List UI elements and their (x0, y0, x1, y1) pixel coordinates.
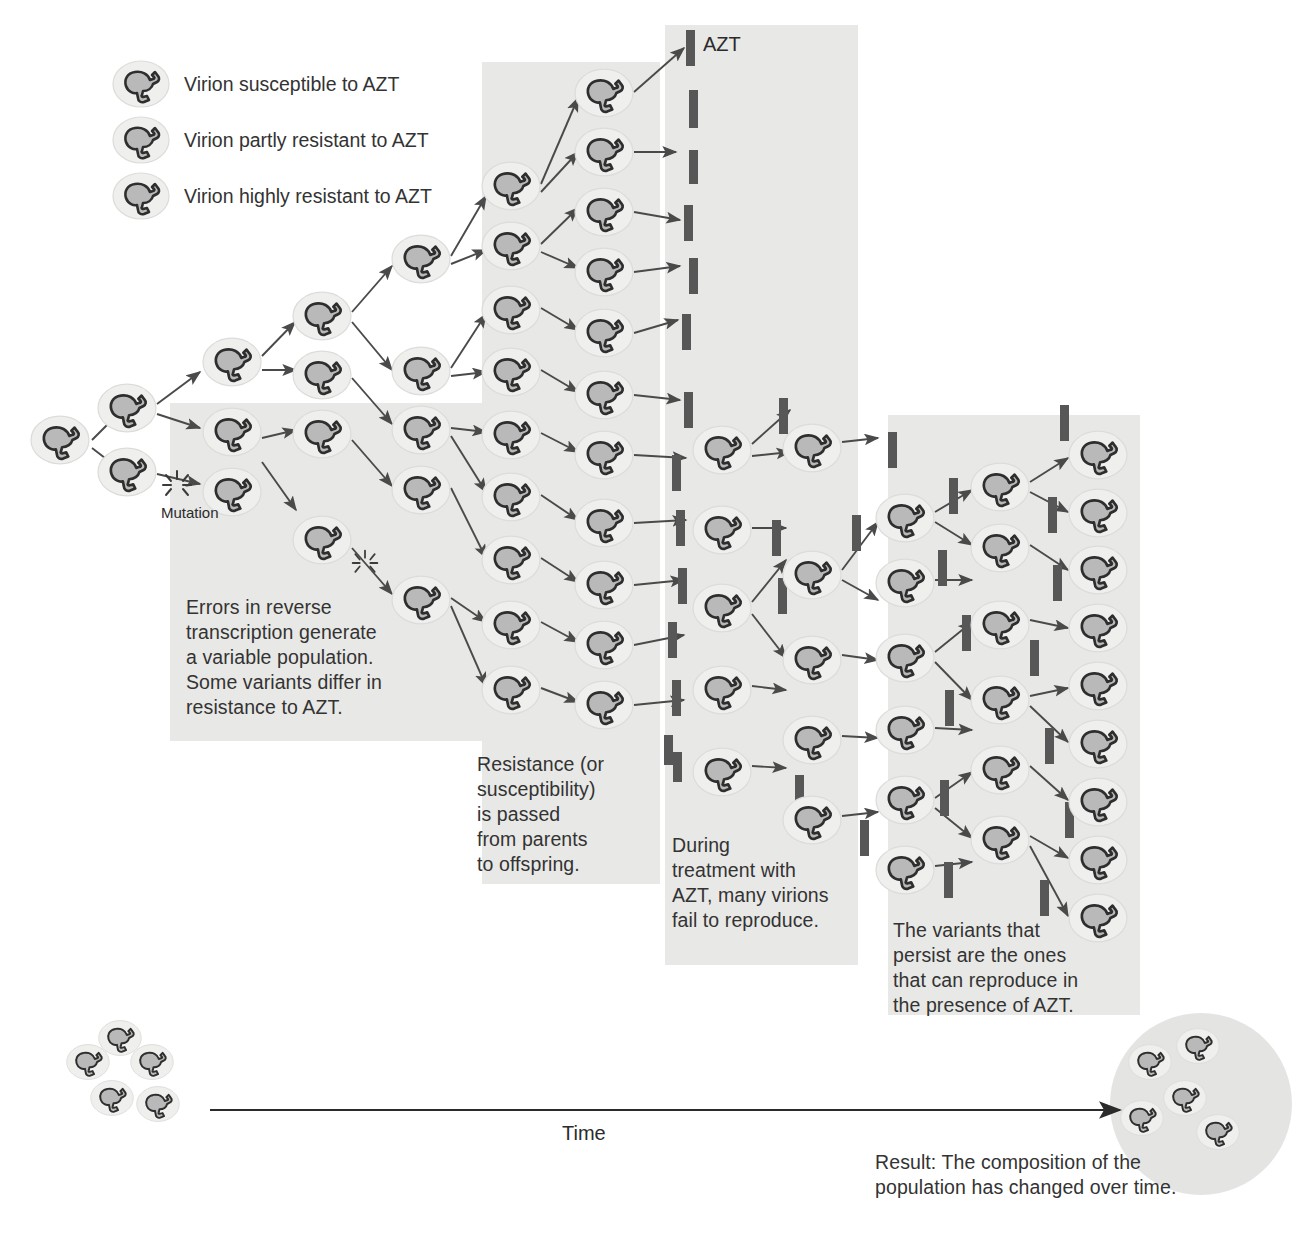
reproduction-arrow (352, 322, 392, 370)
legend-label-highly-resistant: Virion highly resistant to AZT (184, 185, 432, 208)
virion-icon (293, 351, 351, 399)
panel-selection (665, 25, 858, 965)
figure-canvas: Virion susceptible to AZT Virion partly … (0, 0, 1304, 1237)
legend-item-susceptible: Virion susceptible to AZT (112, 60, 399, 108)
virion-icon (293, 292, 351, 340)
legend-item-partly-resistant: Virion partly resistant to AZT (112, 116, 429, 164)
caption-persistence: The variants that persist are the ones t… (893, 918, 1108, 1018)
azt-label: AZT (703, 33, 741, 56)
caption-heredity: Resistance (or susceptibility) is passed… (477, 752, 647, 877)
reproduction-arrow (451, 196, 486, 256)
virion-icon (203, 338, 261, 386)
virion-icon (112, 60, 170, 108)
reproduction-arrow (262, 322, 295, 356)
mutation-starburst-icon-2 (350, 548, 380, 578)
virion-icon (112, 116, 170, 164)
virion-icon (98, 384, 156, 432)
reproduction-arrow (92, 414, 118, 440)
legend-item-highly-resistant: Virion highly resistant to AZT (112, 172, 432, 220)
time-label: Time (562, 1122, 606, 1145)
caption-variation: Errors in reverse transcription generate… (186, 595, 436, 720)
virion-icon (392, 235, 450, 283)
virion-icon (98, 448, 156, 496)
reproduction-arrow (92, 448, 118, 468)
virion-icon-start (131, 1045, 173, 1080)
mutation-label: Mutation (161, 504, 219, 521)
virion-icon-start (99, 1021, 141, 1056)
reproduction-arrow (352, 266, 392, 312)
virion-icon-start (91, 1081, 133, 1116)
result-text: Result: The composition of the populatio… (875, 1150, 1205, 1200)
virion-icon (392, 347, 450, 395)
virion-icon (31, 416, 89, 464)
reproduction-arrow (451, 372, 486, 376)
legend-label-partly-resistant: Virion partly resistant to AZT (184, 129, 429, 152)
mutation-starburst-icon (160, 468, 194, 502)
virion-icon-start (67, 1045, 109, 1080)
virion-icon-start (137, 1087, 179, 1122)
reproduction-arrow (451, 314, 486, 368)
caption-selection: During treatment with AZT, many virions … (672, 833, 862, 933)
reproduction-arrow (157, 372, 200, 404)
virion-icon (112, 172, 170, 220)
reproduction-arrow (451, 250, 486, 264)
legend-label-susceptible: Virion susceptible to AZT (184, 73, 399, 96)
